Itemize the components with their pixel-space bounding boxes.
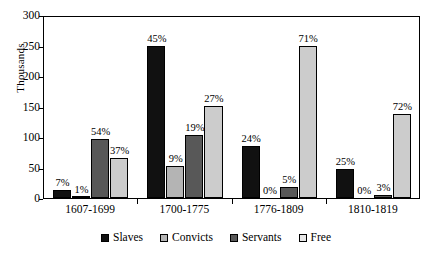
bar-value-label: 54% bbox=[86, 127, 115, 138]
bar-convicts-1700-1775 bbox=[166, 166, 184, 198]
y-axis: 300250200150100500 bbox=[0, 0, 40, 255]
bar-free-1810-1819 bbox=[393, 114, 411, 198]
x-tick-mark bbox=[326, 199, 327, 204]
bar-value-label: 45% bbox=[142, 34, 171, 45]
bar-slaves-1700-1775 bbox=[147, 46, 165, 199]
bar-value-label: 24% bbox=[237, 134, 266, 145]
legend-item-servants[interactable]: Servants bbox=[230, 232, 282, 244]
y-tick-label: 200 bbox=[6, 71, 40, 83]
x-tick-label: 1607-1699 bbox=[43, 203, 137, 216]
legend-item-convicts[interactable]: Convicts bbox=[160, 232, 213, 244]
bar-servants-1810-1819 bbox=[374, 195, 392, 198]
plot-area: 7%1%54%37%45%9%19%27%24%0%5%71%25%0%3%72… bbox=[43, 16, 420, 199]
bar-value-label: 37% bbox=[105, 146, 134, 157]
bar-servants-1700-1775 bbox=[185, 135, 203, 198]
y-tick-mark bbox=[39, 199, 43, 200]
x-tick-label: 1810-1819 bbox=[326, 203, 420, 216]
bar-value-label: 25% bbox=[331, 157, 360, 168]
x-tick-mark bbox=[232, 199, 233, 204]
legend-swatch-icon bbox=[299, 234, 307, 242]
bar-chart: Thousands 300250200150100500 7%1%54%37%4… bbox=[0, 0, 432, 255]
legend-label: Slaves bbox=[113, 232, 143, 244]
y-tick-label: 50 bbox=[6, 163, 40, 175]
bar-value-label: 72% bbox=[388, 102, 417, 113]
y-tick-label: 300 bbox=[6, 10, 40, 22]
y-tick-label: 150 bbox=[6, 102, 40, 114]
y-tick-label: 250 bbox=[6, 41, 40, 53]
bar-free-1700-1775 bbox=[204, 106, 222, 198]
legend-label: Servants bbox=[242, 232, 282, 244]
legend-swatch-icon bbox=[101, 234, 109, 242]
bar-free-1607-1699 bbox=[110, 158, 128, 198]
legend-item-slaves[interactable]: Slaves bbox=[101, 232, 143, 244]
legend-label: Free bbox=[311, 232, 331, 244]
x-tick-label: 1776-1809 bbox=[232, 203, 326, 216]
legend-item-free[interactable]: Free bbox=[299, 232, 331, 244]
legend-label: Convicts bbox=[172, 232, 213, 244]
y-tick-label: 100 bbox=[6, 132, 40, 144]
legend-swatch-icon bbox=[160, 234, 168, 242]
y-tick-label: 0 bbox=[6, 193, 40, 205]
bar-value-label: 27% bbox=[199, 94, 228, 105]
bars-container: 7%1%54%37%45%9%19%27%24%0%5%71%25%0%3%72… bbox=[44, 17, 419, 198]
bar-value-label: 71% bbox=[294, 34, 323, 45]
bar-servants-1776-1809 bbox=[280, 187, 298, 198]
legend-swatch-icon bbox=[230, 234, 238, 242]
bar-convicts-1607-1699 bbox=[72, 196, 90, 198]
bar-free-1776-1809 bbox=[299, 46, 317, 199]
x-tick-label: 1700-1775 bbox=[137, 203, 231, 216]
legend: SlavesConvictsServantsFree bbox=[0, 232, 432, 244]
x-tick-mark bbox=[137, 199, 138, 204]
